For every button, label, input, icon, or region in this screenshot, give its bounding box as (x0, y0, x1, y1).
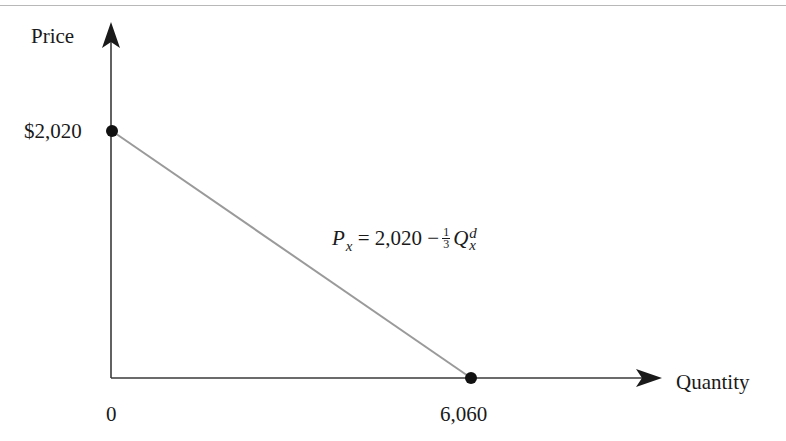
y-intercept-point (106, 125, 118, 137)
equation-minus: − (427, 226, 439, 250)
x-intercept-label: 6,060 (440, 404, 487, 425)
y-intercept-label: $2,020 (24, 121, 82, 142)
x-axis-label: Quantity (676, 372, 750, 393)
equation-subscript: x (469, 239, 477, 251)
demand-curve (112, 131, 471, 378)
equation-quantity-scripts: dx (469, 227, 477, 251)
fraction-denominator: 3 (442, 239, 450, 250)
equation-lhs-subscript: x (346, 238, 353, 254)
equation-fraction: 13 (442, 227, 450, 250)
equation-constant: 2,020 (375, 226, 422, 250)
y-axis-label: Price (31, 26, 74, 47)
equation-equals: = (358, 226, 370, 250)
equation-quantity-var: Q (453, 226, 468, 250)
x-intercept-point (465, 372, 477, 384)
demand-chart (0, 0, 786, 441)
equation-lhs: P (332, 226, 345, 250)
demand-equation: Px = 2,020 −13Qdx (332, 228, 477, 252)
origin-label: 0 (106, 404, 117, 425)
